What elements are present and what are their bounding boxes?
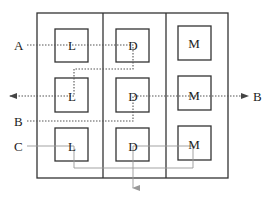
flow-label-B-in: B <box>14 114 23 129</box>
label-D-row3: D <box>128 139 137 154</box>
flow-label-B-out: B <box>253 89 262 104</box>
label-L-row2: L <box>68 89 76 104</box>
label-L-row1: L <box>68 38 76 53</box>
label-M-row1: M <box>188 36 200 51</box>
label-M-row2: M <box>188 88 200 103</box>
flow-label-C: C <box>14 139 23 154</box>
label-L-row3: L <box>68 139 76 154</box>
label-D-row2: D <box>128 89 137 104</box>
label-D-row1: D <box>128 38 137 53</box>
process-flow-diagram: L D M L D M L D M A B B C <box>0 0 271 207</box>
flow-label-A: A <box>14 38 24 53</box>
label-M-row3: M <box>188 137 200 152</box>
flow-C-path <box>27 146 193 188</box>
